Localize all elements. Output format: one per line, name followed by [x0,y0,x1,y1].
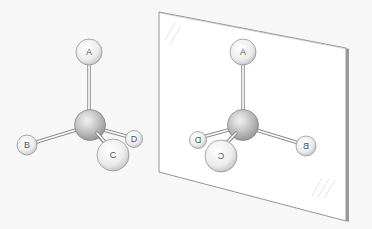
svg-text:B: B [303,141,309,151]
mirrored-atom-b: B [296,136,316,156]
svg-text:C: C [217,151,224,161]
svg-text:B: B [24,140,30,150]
chirality-diagram: D A B C [0,0,372,229]
svg-text:A: A [240,47,246,57]
svg-text:A: A [86,47,92,57]
atom-b: B [17,135,37,155]
svg-text:C: C [110,150,117,160]
mirrored-atom-a: A [230,39,256,65]
mirrored-atom-c: C [205,140,237,172]
atom-d: D [126,131,143,148]
atom-c: C [97,139,129,171]
original-molecule: D A B C [17,39,143,171]
diagram-canvas: D A B C [0,0,372,229]
svg-text:D: D [194,135,201,145]
atom-a: A [76,39,102,65]
svg-text:D: D [131,134,138,144]
mirrored-atom-d: D [190,132,207,149]
